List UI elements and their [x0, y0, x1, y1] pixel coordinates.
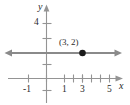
- y-axis-label: y: [38, 2, 42, 12]
- x-tick-label-3: 3: [80, 85, 85, 95]
- coordinate-plane-figure: y x 4 -1 1 3 5 (3, 2): [0, 0, 130, 105]
- graph-line-left-arrowhead: [5, 50, 13, 57]
- x-axis-label: x: [119, 81, 123, 91]
- y-axis-arrowhead: [44, 5, 50, 12]
- x-tick-label--1: -1: [23, 85, 31, 95]
- y-tick-label-4: 4: [34, 18, 39, 28]
- x-tick-label-5: 5: [107, 85, 112, 95]
- graph-line-right-arrowhead: [115, 50, 123, 57]
- x-tick-label-1: 1: [62, 85, 67, 95]
- point-coordinate-label: (3, 2): [59, 38, 79, 47]
- plotted-point-3-2: [79, 50, 86, 57]
